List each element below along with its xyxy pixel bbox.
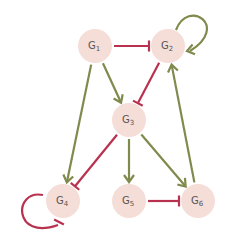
edge-line	[103, 63, 121, 102]
node-label-subscript: 5	[130, 200, 134, 208]
node-label-letter: G	[191, 195, 199, 206]
node-g5: G5	[112, 184, 146, 218]
node-label-subscript: 4	[64, 200, 69, 208]
inhibition-bar	[54, 220, 64, 225]
edge-g1-g2-inhibition	[114, 41, 149, 52]
node-label-letter: G	[122, 195, 130, 206]
edge-line	[75, 135, 117, 187]
edge-line	[138, 63, 159, 103]
node-label-subscript: 1	[96, 45, 100, 53]
node-g6: G6	[181, 184, 215, 218]
edge-g3-g4-inhibition	[71, 135, 117, 190]
edge-line	[141, 134, 185, 185]
edge-g6-g2-activation	[168, 65, 194, 183]
edge-g5-g6-inhibition	[148, 196, 179, 207]
edge-g3-g5-activation	[124, 139, 134, 182]
edge-line	[67, 65, 91, 182]
node-label-letter: G	[88, 40, 96, 51]
node-label-letter: G	[161, 40, 169, 51]
node-g4: G4	[46, 184, 80, 218]
edge-g3-g6-activation	[141, 134, 185, 186]
node-label-subscript: 6	[199, 200, 204, 208]
node-g1: G1	[78, 29, 112, 63]
edge-g2-g3-inhibition	[133, 63, 159, 106]
node-g2: G2	[151, 29, 185, 63]
node-label-subscript: 2	[169, 45, 173, 53]
edge-g1-g3-activation	[103, 63, 123, 102]
edge-line	[172, 66, 195, 183]
node-label-subscript: 3	[130, 119, 134, 127]
nodes-layer: G1G2G3G4G5G6	[46, 29, 215, 218]
gene-network-diagram: G1G2G3G4G5G6	[0, 0, 233, 252]
node-label-letter: G	[56, 195, 64, 206]
node-label-letter: G	[122, 114, 130, 125]
edge-g1-g4-activation	[63, 65, 91, 183]
node-g3: G3	[112, 103, 146, 137]
